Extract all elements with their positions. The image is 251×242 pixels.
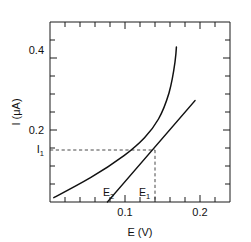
e2-base: E (103, 186, 110, 198)
x-tick-label-1: 0.2 (192, 206, 207, 218)
e2-subscript: 2 (110, 192, 114, 201)
i1-subscript: 1 (40, 149, 44, 158)
y-axis-title: I (μA) (10, 98, 22, 125)
y-tick-label-1: 0.2 (29, 124, 44, 136)
x-tick-label-0: 0.1 (117, 206, 132, 218)
x-axis-title: E (V) (127, 226, 152, 238)
iv-curve-chart: 0.4 0.2 I1 0.1 0.2 E (V) I (μA) E2 E1 (0, 0, 251, 242)
figure-container: 0.4 0.2 I1 0.1 0.2 E (V) I (μA) E2 E1 (0, 0, 251, 242)
e1-subscript: 1 (146, 192, 150, 201)
y-tick-label-0: 0.4 (29, 44, 44, 56)
e1-base: E (139, 186, 146, 198)
